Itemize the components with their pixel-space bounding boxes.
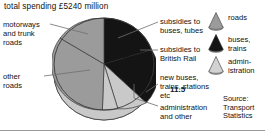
legend-label-buses-trains: buses, trains: [228, 36, 250, 53]
pie-chart: 18.5 31.0 11.5: [52, 12, 156, 124]
legend-label-roads: roads: [228, 14, 247, 23]
cone-icon: [206, 55, 226, 76]
pie-svg: [52, 12, 156, 124]
callout-other-roads: other roads: [3, 72, 45, 90]
legend: roads buses, trains admin- istration: [206, 11, 264, 77]
slice-value-motorways: 18.5: [122, 53, 138, 62]
legend-label-administration: admin- istration: [228, 58, 255, 75]
callout-motorways-trunk-roads: motorways and trunk roads: [3, 20, 51, 48]
legend-item-administration: admin- istration: [206, 55, 264, 77]
callout-administration-and-other: administration and other: [160, 103, 214, 121]
cone-icon: [206, 33, 226, 54]
callout-new-buses-trains-stations: new buses, trains, stations etc: [160, 73, 212, 101]
slice-value-other-roads: 31.0: [135, 85, 151, 94]
cone-icon: [206, 11, 226, 32]
chart-title: total spending £5240 million: [4, 2, 108, 11]
transport-spending-pie-chart-figure: total spending £5240 million 18.5: [0, 0, 265, 134]
bottom-divider: [0, 130, 265, 131]
callout-subsidies-buses-tubes: subsidies to buses, tubes: [160, 17, 212, 35]
legend-item-buses-trains: buses, trains: [206, 33, 264, 55]
source-note: Source: Transport Statistics: [223, 95, 254, 121]
callout-subsidies-british-rail: subsidies to British Rail: [160, 45, 212, 63]
legend-item-roads: roads: [206, 11, 264, 33]
